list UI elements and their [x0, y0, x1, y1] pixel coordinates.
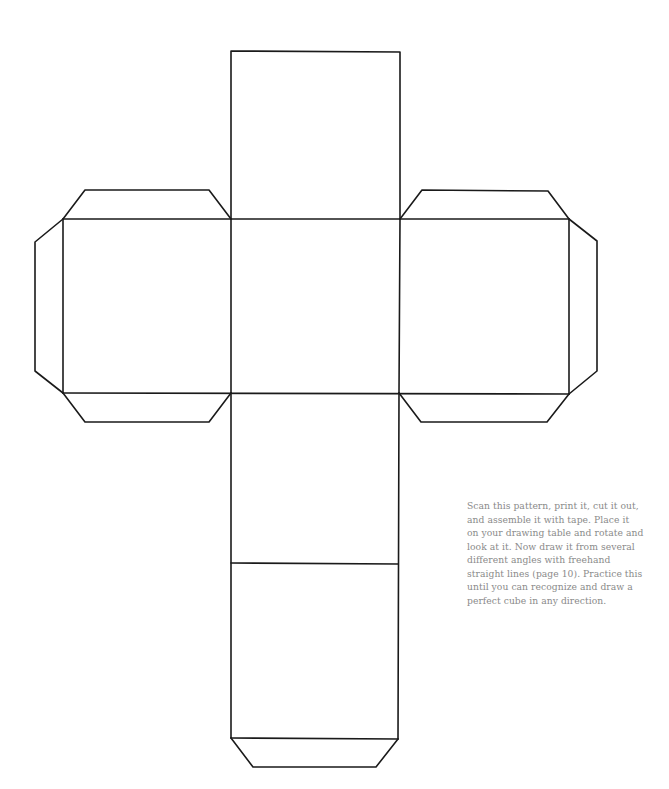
- face-lower: [231, 393, 399, 739]
- caption-line: and assemble it with tape. Place it: [467, 513, 667, 527]
- tab-right-bottom: [399, 393, 569, 422]
- tab-right-side: [569, 219, 597, 394]
- face-top: [231, 51, 400, 219]
- tab-left-top: [63, 190, 231, 219]
- caption-line: look at it. Now draw it from several: [467, 540, 667, 554]
- caption-line: different angles with freehand: [467, 553, 667, 567]
- cube-net-pattern: [0, 0, 669, 789]
- caption-line: Scan this pattern, print it, cut it out,: [467, 499, 667, 513]
- caption-line: perfect cube in any direction.: [467, 594, 667, 608]
- face-center: [63, 219, 569, 394]
- tab-left-bottom: [63, 393, 231, 422]
- tab-right-top: [400, 190, 569, 219]
- tab-bottom: [231, 738, 398, 767]
- caption-line: on your drawing table and rotate and: [467, 526, 667, 540]
- caption-line: until you can recognize and draw a: [467, 580, 667, 594]
- tab-left-side: [35, 219, 63, 393]
- caption-line: straight lines (page 10). Practice this: [467, 567, 667, 581]
- instruction-caption: Scan this pattern, print it, cut it out,…: [467, 499, 667, 607]
